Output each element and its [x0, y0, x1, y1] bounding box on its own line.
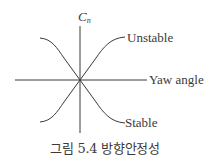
stable-label: Stable — [125, 115, 158, 130]
x-axis-label: Yaw angle — [149, 72, 204, 87]
directional-stability-diagram: Cn Unstable Yaw angle Stable 그림 5.4 방향안정… — [0, 0, 210, 163]
unstable-label: Unstable — [127, 30, 173, 45]
y-axis-label: Cn — [78, 9, 91, 25]
y-axis-label-subscript: n — [87, 16, 91, 25]
figure-caption: 그림 5.4 방향안정성 — [0, 138, 210, 157]
